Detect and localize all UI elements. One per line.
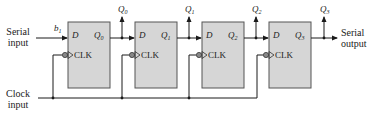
clock-tap-wire [53, 55, 62, 98]
junction-dot [121, 37, 124, 40]
junction-dot [188, 97, 191, 100]
junction-dot [188, 37, 191, 40]
clk-pin-label: CLK [275, 50, 294, 60]
inversion-bubble-icon [62, 52, 67, 57]
q2-tap-label: Q2 [252, 4, 262, 15]
d-pin-label: D [138, 30, 146, 40]
shift-register-diagram: Serial input b1 Clock input D Q0 CLK Q0 … [0, 0, 371, 117]
d-pin-label: D [71, 30, 79, 40]
serial-input-label-line2: input [8, 37, 29, 48]
flipflop-2: D Q2 CLK [188, 22, 244, 99]
junction-dot [323, 37, 326, 40]
inversion-bubble-icon [129, 52, 134, 57]
clock-input-label-line1: Clock [6, 88, 30, 99]
inversion-bubble-icon [263, 52, 268, 57]
clk-pin-label: CLK [208, 50, 227, 60]
junction-dot [255, 37, 258, 40]
q0-tap-label: Q0 [118, 4, 128, 15]
inversion-bubble-icon [196, 52, 201, 57]
d-pin-label: D [272, 30, 280, 40]
flipflop-1: D Q1 CLK [121, 22, 177, 99]
d-pin-label: D [205, 30, 213, 40]
serial-output-label-line2: output [341, 38, 367, 49]
serial-output-label-line1: Serial [341, 27, 365, 38]
clk-pin-label: CLK [74, 50, 93, 60]
q1-tap-label: Q1 [185, 4, 195, 15]
junction-dot [52, 97, 55, 100]
flipflop-3: D Q3 CLK [257, 22, 311, 98]
junction-dot [121, 97, 124, 100]
clock-input-label-line2: input [8, 99, 29, 110]
serial-input-label-line1: Serial [6, 26, 30, 37]
q3-tap-label: Q3 [320, 4, 330, 15]
b1-label: b1 [54, 23, 62, 34]
clk-pin-label: CLK [141, 50, 160, 60]
clock-tap-wire [122, 55, 129, 98]
clock-tap-wire [189, 55, 196, 98]
clock-tap-wire [257, 55, 263, 98]
